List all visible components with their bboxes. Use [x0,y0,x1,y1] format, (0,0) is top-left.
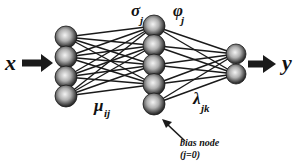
bias-index-label: (j=0) [180,149,200,161]
input-arrow-icon [22,54,53,72]
hidden-node [143,15,165,37]
hidden-node [143,74,165,96]
output-arrow-icon [248,55,276,73]
mu-label: μ [93,96,103,115]
input-label: x [4,50,16,75]
input-node [55,26,77,48]
lambda-label: λ [192,89,201,108]
input-hidden-connections [66,26,154,96]
output-node [226,64,246,84]
input-layer [55,26,77,107]
output-label: y [279,50,292,75]
hidden-node [143,35,165,57]
mu-subscript: ij [104,107,111,119]
input-node [55,85,77,107]
input-node [55,46,77,68]
neural-network-diagram: x y σ j φ j μ ij λ jk bias node (j=0) [0,0,301,167]
connection-line [66,26,154,37]
lambda-subscript: jk [199,102,210,114]
bias-node [143,93,165,115]
output-node [226,44,246,64]
bias-node-label: bias node [180,137,220,148]
hidden-layer [143,15,165,115]
connection-line [154,54,236,65]
output-layer [226,44,246,84]
hidden-node [143,54,165,76]
